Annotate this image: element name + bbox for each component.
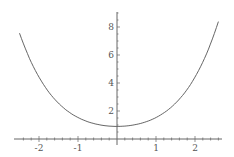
plot-area: -2-112 2468 (0, 0, 234, 157)
x-tick-label: -1 (74, 143, 83, 153)
y-tick-label: 8 (108, 22, 114, 32)
y-tick-label: 2 (108, 106, 114, 116)
chart: -2-112 2468 (0, 0, 234, 157)
y-ticks: 2468 (108, 13, 120, 132)
x-tick-label: 2 (192, 143, 198, 153)
x-tick-label: -2 (35, 143, 44, 153)
y-tick-label: 6 (108, 50, 114, 60)
x-tick-label: 1 (153, 143, 159, 153)
y-tick-label: 4 (108, 78, 114, 88)
